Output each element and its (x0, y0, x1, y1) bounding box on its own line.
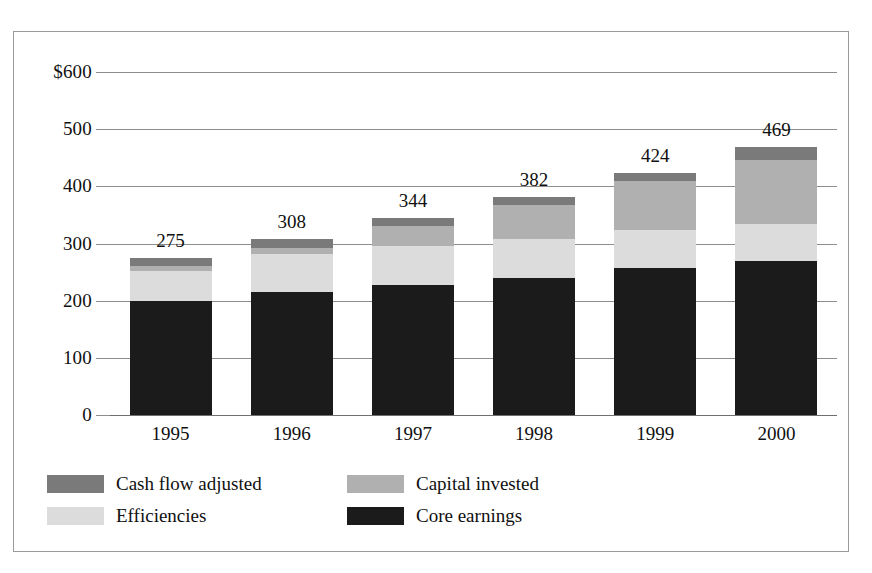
y-axis-label-500: 500 (63, 118, 92, 140)
bar-segment-cash-flow-adjusted[interactable] (372, 218, 454, 226)
legend-swatch-icon (47, 475, 104, 493)
bar-segment-cash-flow-adjusted[interactable] (130, 258, 212, 267)
stacked-bar[interactable] (735, 147, 817, 415)
bar-segment-core-earnings[interactable] (372, 285, 454, 415)
x-axis-label-1999: 1999 (636, 423, 674, 445)
bar-group: 344 (372, 72, 454, 415)
bar-segment-efficiencies[interactable] (130, 271, 212, 301)
y-tick-400 (96, 186, 110, 187)
x-axis-label-1996: 1996 (273, 423, 311, 445)
legend-swatch-icon (347, 507, 404, 525)
legend-item-cash-flow-adjusted[interactable]: Cash flow adjusted (47, 473, 347, 495)
legend-swatch-icon (347, 475, 404, 493)
legend-item-efficiencies[interactable]: Efficiencies (47, 505, 347, 527)
bar-total-label: 382 (520, 169, 549, 191)
bar-segment-core-earnings[interactable] (251, 292, 333, 415)
x-axis-label-1997: 1997 (394, 423, 432, 445)
bar-group: 382 (493, 72, 575, 415)
y-tick-300 (96, 244, 110, 245)
y-axis-label-200: 200 (63, 290, 92, 312)
y-axis-label-400: 400 (63, 175, 92, 197)
bar-segment-capital-invested[interactable] (372, 226, 454, 246)
y-axis-label-100: 100 (63, 347, 92, 369)
bar-series-container: 275308344382424469 (110, 72, 837, 415)
legend-label: Cash flow adjusted (116, 473, 262, 495)
legend-swatch-icon (47, 507, 104, 525)
legend-label: Core earnings (416, 505, 522, 527)
bar-group: 469 (735, 72, 817, 415)
bar-segment-efficiencies[interactable] (372, 246, 454, 284)
bar-segment-efficiencies[interactable] (735, 224, 817, 261)
legend-label: Efficiencies (116, 505, 206, 527)
y-tick-200 (96, 301, 110, 302)
x-axis-label-1995: 1995 (152, 423, 190, 445)
stacked-bar[interactable] (130, 258, 212, 415)
bar-group: 275 (130, 72, 212, 415)
bar-segment-efficiencies[interactable] (614, 230, 696, 268)
bar-total-label: 469 (762, 119, 791, 141)
bar-group: 424 (614, 72, 696, 415)
y-tick-500 (96, 129, 110, 130)
bar-segment-cash-flow-adjusted[interactable] (493, 197, 575, 205)
bar-segment-core-earnings[interactable] (130, 301, 212, 415)
bar-total-label: 308 (278, 211, 307, 233)
bar-segment-core-earnings[interactable] (735, 261, 817, 415)
bar-segment-core-earnings[interactable] (614, 268, 696, 415)
plot-area: 0100200300400500$600 275308344382424469 (110, 72, 837, 415)
bar-segment-core-earnings[interactable] (493, 278, 575, 415)
y-tick-0 (96, 415, 110, 416)
bar-total-label: 424 (641, 145, 670, 167)
bar-segment-efficiencies[interactable] (251, 254, 333, 292)
x-axis: 199519961997199819992000 (110, 415, 837, 455)
x-axis-label-1998: 1998 (515, 423, 553, 445)
y-axis-label-300: 300 (63, 233, 92, 255)
bar-total-label: 275 (156, 230, 185, 252)
y-axis-label-0: 0 (82, 404, 92, 426)
bar-segment-efficiencies[interactable] (493, 239, 575, 278)
stacked-bar[interactable] (372, 218, 454, 415)
bar-segment-capital-invested[interactable] (614, 181, 696, 230)
y-axis-label-600: $600 (53, 61, 92, 83)
bar-segment-capital-invested[interactable] (493, 205, 575, 239)
stacked-bar[interactable] (614, 173, 696, 415)
bar-segment-capital-invested[interactable] (735, 160, 817, 224)
bar-group: 308 (251, 72, 333, 415)
bar-segment-cash-flow-adjusted[interactable] (614, 173, 696, 182)
y-tick-100 (96, 358, 110, 359)
y-tick-600 (96, 72, 110, 73)
legend-item-capital-invested[interactable]: Capital invested (347, 473, 627, 495)
stacked-bar[interactable] (493, 197, 575, 415)
bar-segment-cash-flow-adjusted[interactable] (251, 239, 333, 248)
chart-frame: 0100200300400500$600 275308344382424469 … (13, 31, 849, 552)
x-axis-label-2000: 2000 (757, 423, 795, 445)
stacked-bar[interactable] (251, 239, 333, 415)
bar-segment-cash-flow-adjusted[interactable] (735, 147, 817, 160)
bar-total-label: 344 (399, 190, 428, 212)
legend-item-core-earnings[interactable]: Core earnings (347, 505, 627, 527)
legend-label: Capital invested (416, 473, 539, 495)
chart-legend: Cash flow adjustedCapital investedEffici… (47, 468, 627, 532)
